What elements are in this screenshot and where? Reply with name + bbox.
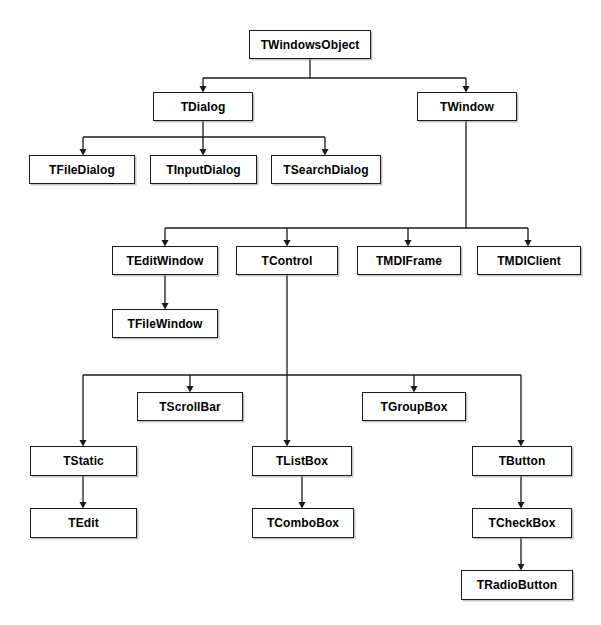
node-tgroupbox[interactable]: TGroupBox — [362, 392, 466, 421]
class-hierarchy-diagram: TWindowsObject TDialog TWindow TFileDial… — [0, 0, 601, 625]
node-label: TListBox — [276, 454, 328, 468]
node-tradiobutton[interactable]: TRadioButton — [461, 570, 573, 600]
node-label: TButton — [499, 454, 546, 468]
node-tbutton[interactable]: TButton — [472, 446, 572, 476]
node-tedit[interactable]: TEdit — [30, 508, 137, 538]
node-label: TComboBox — [267, 516, 339, 530]
node-tfilewindow[interactable]: TFileWindow — [112, 309, 218, 338]
edge-tbutton-tcheckbox — [518, 476, 525, 509]
node-tdialog[interactable]: TDialog — [153, 92, 253, 121]
node-label: TMDIClient — [497, 254, 561, 268]
node-label: TWindow — [440, 100, 494, 114]
node-label: TControl — [262, 254, 313, 268]
node-label: TStatic — [63, 454, 104, 468]
node-tstatic[interactable]: TStatic — [30, 446, 137, 476]
node-label: TGroupBox — [381, 400, 448, 414]
edge-tlistbox-tcombobox — [299, 476, 306, 509]
node-tfiledialog[interactable]: TFileDialog — [29, 155, 135, 184]
node-label: TInputDialog — [166, 163, 241, 177]
edge-tcheckbox-tradiobutton — [518, 538, 525, 571]
node-label: TEdit — [68, 516, 99, 530]
edge-tstatic-tedit — [80, 476, 87, 509]
node-label: TSearchDialog — [283, 163, 368, 177]
node-tmdiframe[interactable]: TMDIFrame — [357, 246, 461, 275]
edge-teditwindow-tfilewindow — [162, 275, 169, 310]
node-label: TWindowsObject — [261, 38, 360, 52]
node-tcontrol[interactable]: TControl — [236, 246, 338, 275]
node-tmdiclient[interactable]: TMDIClient — [477, 246, 581, 275]
node-tinputdialog[interactable]: TInputDialog — [150, 155, 257, 184]
node-tcombobox[interactable]: TComboBox — [252, 508, 354, 538]
node-label: TRadioButton — [477, 578, 558, 592]
node-tlistbox[interactable]: TListBox — [252, 446, 352, 476]
node-label: TDialog — [181, 100, 226, 114]
node-tsearchdialog[interactable]: TSearchDialog — [271, 155, 381, 184]
node-label: TMDIFrame — [376, 254, 442, 268]
node-label: TScrollBar — [159, 400, 221, 414]
edge-twindowsobject-children — [200, 59, 470, 93]
node-twindow[interactable]: TWindow — [417, 92, 517, 121]
node-label: TFileWindow — [128, 317, 203, 331]
node-label: TCheckBox — [489, 516, 556, 530]
edge-tdialog-children — [80, 121, 329, 156]
node-tcheckbox[interactable]: TCheckBox — [472, 508, 572, 538]
node-label: TFileDialog — [49, 163, 115, 177]
node-twindowsobject[interactable]: TWindowsObject — [249, 30, 371, 59]
node-tscrollbar[interactable]: TScrollBar — [137, 392, 243, 421]
node-label: TEditWindow — [127, 254, 204, 268]
node-teditwindow[interactable]: TEditWindow — [112, 246, 218, 275]
